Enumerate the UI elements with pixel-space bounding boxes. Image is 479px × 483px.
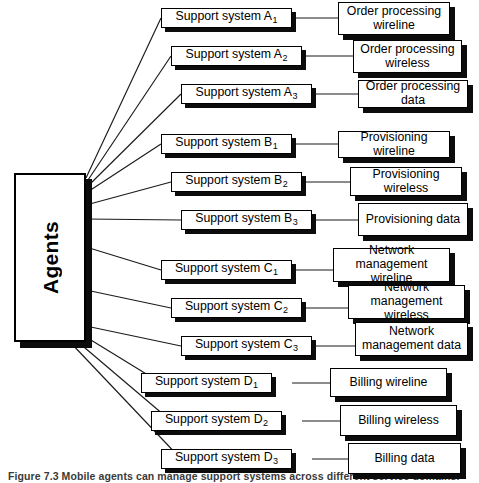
support-system-c1[interactable]: Support system C1 xyxy=(161,260,292,280)
support-system-d1-label: Support system D1 xyxy=(155,375,258,390)
service-provisioning-data[interactable]: Provisioning data xyxy=(358,203,468,236)
service-order-processing-wireless[interactable]: Order processing wireless xyxy=(353,40,462,73)
support-system-d3-label: Support system D3 xyxy=(175,451,278,466)
agents-box[interactable]: Agents xyxy=(14,173,86,342)
link-agents-a2 xyxy=(86,56,171,183)
support-system-a1-label: Support system A1 xyxy=(176,10,278,25)
support-system-d2-label: Support system D2 xyxy=(165,413,268,428)
support-system-a3-label: Support system A3 xyxy=(196,86,298,101)
service-billing-wireless[interactable]: Billing wireless xyxy=(340,405,457,436)
link-agents-b2 xyxy=(86,182,171,205)
service-network-management-data[interactable]: Network management data xyxy=(355,322,468,356)
service-provisioning-wireline[interactable]: Provisioning wireline xyxy=(338,131,450,158)
support-system-b3[interactable]: Support system B3 xyxy=(181,210,312,230)
service-order-processing-wireline[interactable]: Order processing wireline xyxy=(338,2,450,35)
support-system-d3[interactable]: Support system D3 xyxy=(161,449,292,469)
support-system-c2-label: Support system C2 xyxy=(185,300,288,315)
support-system-d1[interactable]: Support system D1 xyxy=(141,373,272,393)
support-system-d2[interactable]: Support system D2 xyxy=(151,411,282,431)
support-system-b2-label: Support system B2 xyxy=(185,174,288,189)
support-system-b3-label: Support system B3 xyxy=(195,212,298,227)
support-system-a2-label: Support system A2 xyxy=(186,48,288,63)
link-agents-c2 xyxy=(86,290,171,308)
link-agents-a1 xyxy=(86,18,161,178)
link-agents-c3 xyxy=(86,326,181,346)
link-agents-d3 xyxy=(70,342,181,459)
service-network-management-wireless[interactable]: Network management wireless xyxy=(348,285,465,319)
support-system-b2[interactable]: Support system B2 xyxy=(171,172,302,192)
support-system-b1[interactable]: Support system B1 xyxy=(161,134,292,154)
link-agents-c1 xyxy=(86,247,161,270)
service-network-management-wireline[interactable]: Network management wireline xyxy=(333,248,450,282)
service-provisioning-wireless[interactable]: Provisioning wireless xyxy=(350,167,462,196)
support-system-a2[interactable]: Support system A2 xyxy=(171,46,302,66)
link-agents-b3 xyxy=(86,219,181,220)
service-billing-wireline[interactable]: Billing wireline xyxy=(330,368,447,397)
support-system-c3-label: Support system C3 xyxy=(195,338,298,353)
support-system-c1-label: Support system C1 xyxy=(175,262,278,277)
support-system-b1-label: Support system B1 xyxy=(175,136,278,151)
support-system-c3[interactable]: Support system C3 xyxy=(181,336,312,356)
support-system-a1[interactable]: Support system A1 xyxy=(161,8,292,28)
diagram-canvas: Agents Support system A1 Support system … xyxy=(0,0,479,483)
support-system-c2[interactable]: Support system C2 xyxy=(171,298,302,318)
support-system-a3[interactable]: Support system A3 xyxy=(181,84,312,104)
service-order-processing-data[interactable]: Order processing data xyxy=(358,80,468,108)
agents-label: Agents xyxy=(40,221,61,294)
service-billing-data[interactable]: Billing data xyxy=(348,443,461,474)
